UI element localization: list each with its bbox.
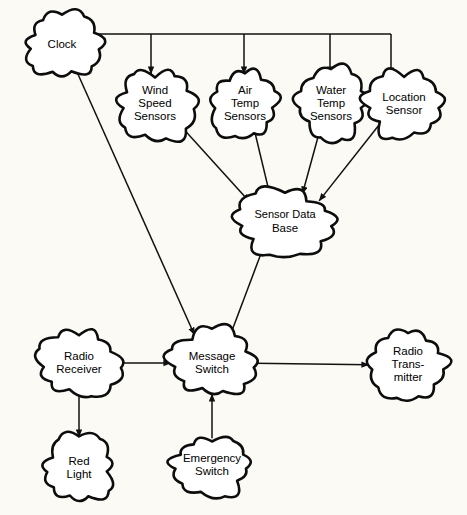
node-label: Sensors bbox=[310, 110, 352, 122]
data-flow-diagram: ClockWindSpeedSensorsAirTempSensorsWater… bbox=[0, 0, 467, 515]
node-label: Air bbox=[238, 84, 252, 96]
node-radio-receiver[interactable]: RadioReceiver bbox=[35, 329, 123, 397]
node-red-light[interactable]: RedLight bbox=[42, 432, 113, 501]
node-label: Radio bbox=[64, 350, 94, 362]
node-label: Water bbox=[316, 84, 346, 96]
node-label: Temp bbox=[231, 97, 259, 109]
node-label: Radio bbox=[393, 345, 423, 357]
node-label: Emergency bbox=[183, 452, 241, 464]
node-message-switch[interactable]: MessageSwitch bbox=[164, 324, 258, 394]
node-water-temp[interactable]: WaterTempSensors bbox=[293, 64, 368, 144]
node-label: Sensors bbox=[224, 110, 266, 122]
node-clock[interactable]: Clock bbox=[26, 9, 106, 76]
node-label: Message bbox=[189, 350, 236, 362]
node-label: Sensors bbox=[134, 110, 176, 122]
edge-air-to-db bbox=[255, 133, 270, 194]
edge-message-to-transmitter bbox=[250, 363, 369, 364]
node-label: Base bbox=[272, 222, 298, 234]
node-label: Temp bbox=[317, 97, 345, 109]
node-wind-speed[interactable]: WindSpeedSensors bbox=[116, 70, 199, 142]
edge-message-to-db bbox=[229, 249, 263, 338]
node-label: Location bbox=[382, 91, 425, 103]
node-label: Wind bbox=[142, 84, 168, 96]
node-label: Sensor Data bbox=[254, 208, 316, 220]
node-air-temp[interactable]: AirTempSensors bbox=[210, 69, 280, 139]
node-label: Switch bbox=[195, 363, 229, 375]
node-label: Light bbox=[67, 468, 93, 480]
node-label: Trans- bbox=[392, 358, 425, 370]
node-label: Sensor bbox=[386, 104, 423, 116]
node-location-sensor[interactable]: LocationSensor bbox=[360, 69, 445, 140]
node-label: mitter bbox=[394, 371, 423, 383]
node-label: Clock bbox=[48, 38, 77, 50]
node-emergency-switch[interactable]: EmergencySwitch bbox=[167, 437, 250, 498]
node-label: Switch bbox=[195, 465, 229, 477]
edge-water-to-db bbox=[302, 132, 319, 194]
node-label: Receiver bbox=[56, 363, 102, 375]
diagram-canvas: ClockWindSpeedSensorsAirTempSensorsWater… bbox=[0, 0, 467, 515]
node-radio-transmitter[interactable]: RadioTrans-mitter bbox=[367, 330, 452, 401]
node-layer: ClockWindSpeedSensorsAirTempSensorsWater… bbox=[26, 9, 452, 501]
node-label: Speed bbox=[138, 97, 171, 109]
node-label: Red bbox=[68, 455, 89, 467]
